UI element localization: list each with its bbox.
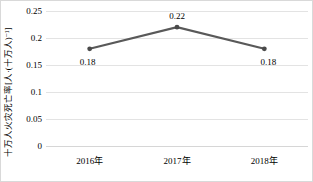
y-axis-title-text: 十万人火灾死亡率[人·(十万人)⁻¹] [5, 27, 14, 156]
x-axis-tick-label: 2017年 [164, 154, 191, 167]
data-point-label: 0.22 [169, 11, 185, 21]
x-axis-tick-label: 2016年 [76, 154, 103, 167]
series-line [46, 11, 308, 146]
x-axis-tick-label: 2018年 [251, 154, 278, 167]
y-axis-tick-label: 0.05 [26, 114, 42, 124]
gridline [46, 146, 308, 147]
data-point-label: 0.18 [260, 57, 276, 67]
y-axis-tick-label: 0.25 [26, 6, 42, 16]
plot-area: 00.050.10.150.20.25 2016年2017年2018年 0.18… [46, 11, 308, 146]
series-polyline [90, 27, 265, 49]
y-axis-tick-label: 0 [38, 141, 43, 151]
data-point-marker [262, 46, 267, 51]
y-axis-tick-label: 0.1 [31, 87, 42, 97]
data-point-marker [87, 46, 92, 51]
data-point-marker [175, 25, 180, 30]
data-point-label: 0.18 [80, 57, 96, 67]
chart-figure: 十万人火灾死亡率[人·(十万人)⁻¹] 00.050.10.150.20.25 … [0, 0, 313, 182]
y-axis-tick-label: 0.15 [26, 60, 42, 70]
y-axis-tick-label: 0.2 [31, 33, 42, 43]
y-axis-title: 十万人火灾死亡率[人·(十万人)⁻¹] [1, 1, 17, 182]
